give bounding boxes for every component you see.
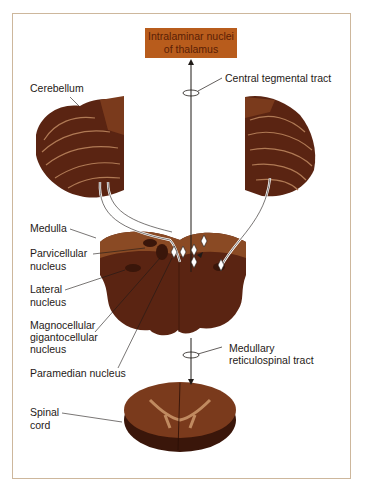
label-parvicellular-nucleus-2: nucleus bbox=[30, 260, 66, 273]
label-cerebellum: Cerebellum bbox=[30, 82, 84, 95]
label-paramedian-nucleus: Paramedian nucleus bbox=[30, 367, 126, 380]
right-cerebellum-illustration bbox=[245, 96, 315, 196]
label-parvicellular-nucleus-1: Parvicellular bbox=[30, 247, 87, 260]
spinal-cord-illustration bbox=[124, 382, 236, 452]
label-lateral-nucleus-2: nucleus bbox=[30, 296, 66, 309]
label-spinal-cord-1: Spinal bbox=[30, 406, 59, 419]
label-central-tegmental-tract: Central tegmental tract bbox=[225, 72, 331, 85]
label-magnocellular-3: nucleus bbox=[30, 343, 66, 356]
title-line-2: of thalamus bbox=[145, 43, 237, 56]
left-cerebellum-illustration bbox=[36, 96, 124, 198]
label-spinal-cord-2: cord bbox=[30, 419, 50, 432]
label-lateral-nucleus-1: Lateral bbox=[30, 283, 62, 296]
label-magnocellular-1: Magnocellular bbox=[30, 319, 95, 332]
title-line-1: Intralaminar nuclei bbox=[145, 30, 237, 43]
label-medullary-1: Medullary bbox=[229, 342, 275, 355]
label-magnocellular-2: gigantocellular bbox=[30, 331, 98, 344]
label-medulla: Medulla bbox=[30, 222, 67, 235]
label-medullary-2: reticulospinal tract bbox=[229, 354, 314, 367]
intralaminar-nuclei-title-box: Intralaminar nuclei of thalamus bbox=[145, 28, 237, 58]
medulla-illustration bbox=[100, 231, 246, 335]
